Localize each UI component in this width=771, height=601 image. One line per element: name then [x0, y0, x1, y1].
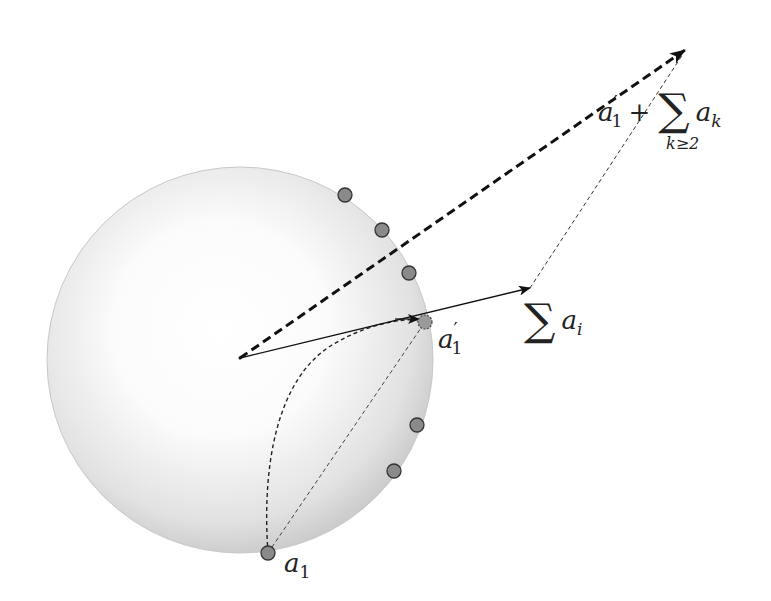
origin-point — [239, 357, 242, 360]
point — [338, 188, 352, 202]
label-a1-prime: a′1 — [438, 319, 462, 358]
label-sum-ai: ∑ai — [524, 294, 582, 345]
label-a1-prime-plus-sum-ak: a′1+∑ak — [598, 84, 721, 135]
point-a1 — [261, 546, 275, 560]
point — [375, 223, 389, 237]
label-a1: a1 — [284, 548, 310, 582]
point — [402, 266, 416, 280]
point — [387, 464, 401, 478]
sphere-vector-sum-diagram: a1 a′1 ∑ai a′1+∑ak k≥2 — [0, 0, 771, 601]
point-a1-prime — [418, 315, 432, 329]
sphere — [47, 167, 433, 553]
label-sum-limit: k≥2 — [666, 134, 699, 153]
point — [410, 418, 424, 432]
